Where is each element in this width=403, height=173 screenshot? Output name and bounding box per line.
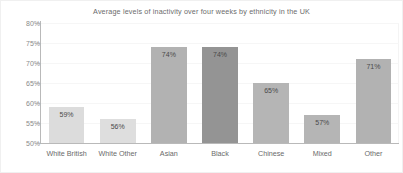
bar[interactable]: 56% [100,119,136,143]
bar[interactable]: 65% [253,83,289,143]
y-axis-tick [35,43,40,44]
bar[interactable]: 59% [49,107,85,143]
y-axis-tick [35,123,40,124]
x-axis-category-label: Other [348,149,399,158]
bar[interactable]: 71% [356,59,392,143]
bar-value-label: 56% [100,123,136,130]
bar-value-label: 59% [49,111,85,118]
bar[interactable]: 57% [304,115,340,143]
bar-value-label: 65% [253,87,289,94]
bar-value-label: 74% [151,51,187,58]
y-axis-tick [35,103,40,104]
bar-value-label: 74% [202,51,238,58]
y-axis-tick [35,63,40,64]
x-axis-category-label: Chinese [246,149,297,158]
y-axis-tick [35,23,40,24]
bar[interactable]: 74% [202,47,238,143]
bar-chart-figure: Average levels of inactivity over four w… [0,0,403,173]
y-axis-tick-labels: 50%55%60%65%70%75%80% [0,0,40,173]
x-axis-category-label: Asian [143,149,194,158]
y-axis-tick [35,143,40,144]
bar-value-label: 57% [304,119,340,126]
x-axis-category-label: Black [194,149,245,158]
bars-layer: 59%56%74%74%65%57%71% [41,0,399,173]
bar[interactable]: 74% [151,47,187,143]
bar-value-label: 71% [356,63,392,70]
x-axis-category-label: White British [41,149,92,158]
y-axis-tick [35,83,40,84]
x-axis-category-label: Mixed [297,149,348,158]
x-axis-category-label: White Other [92,149,143,158]
